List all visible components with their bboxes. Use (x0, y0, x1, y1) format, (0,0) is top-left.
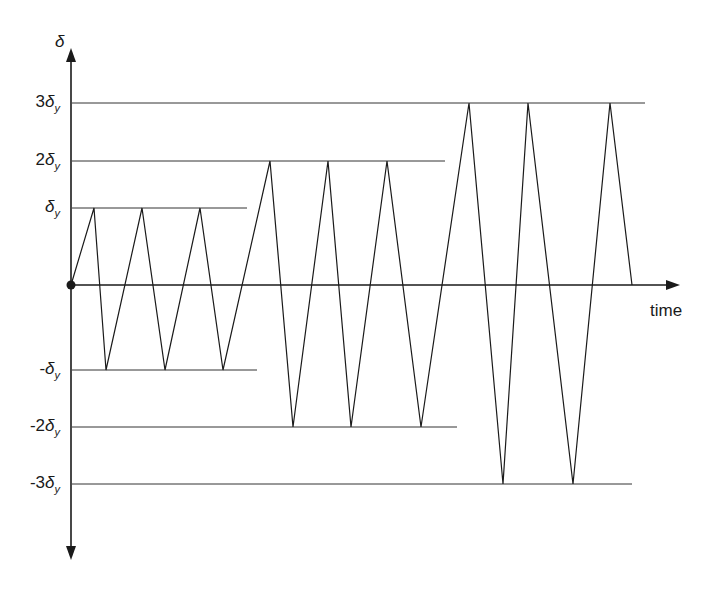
level-label-3: -δy (39, 359, 61, 381)
amplitude-reference-lines (72, 103, 645, 484)
y-axis-down-arrow-icon (66, 546, 76, 560)
level-label-0: 3δy (36, 92, 62, 114)
level-label-4: -2δy (30, 416, 62, 438)
x-axis-arrow-icon (666, 280, 680, 290)
level-label-5: -3δy (30, 473, 62, 495)
x-axis-label: time (650, 301, 682, 320)
amplitude-labels: 3δy2δyδy-δy-2δy-3δy (30, 92, 62, 495)
level-label-1: 2δy (36, 150, 62, 172)
level-label-2: δy (45, 197, 61, 219)
y-axis-up-arrow-icon (66, 48, 76, 62)
y-axis-label: δ (55, 32, 65, 51)
loading-protocol-diagram: 3δy2δyδy-δy-2δy-3δy δ time (0, 0, 716, 590)
